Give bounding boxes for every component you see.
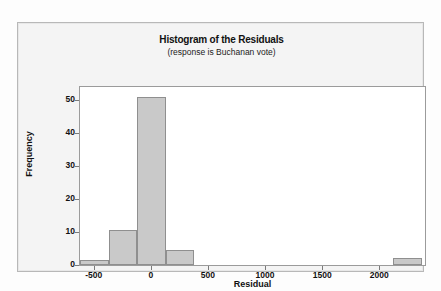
y-axis-title: Frequency: [24, 119, 34, 189]
chart-subtitle: (response is Buchanan vote): [18, 47, 425, 57]
histogram-bar: [109, 230, 138, 265]
x-axis-tick-mark: [94, 266, 95, 270]
x-axis-tick-mark: [208, 266, 209, 270]
x-axis-tick-mark: [379, 266, 380, 270]
x-axis-tick-mark: [151, 266, 152, 270]
histogram-bar: [166, 250, 195, 265]
x-axis-title: Residual: [79, 279, 426, 289]
x-axis-tick-mark: [322, 266, 323, 270]
histogram-bar: [393, 258, 422, 265]
bars-container: [80, 87, 425, 265]
x-axis-tick-mark: [265, 266, 266, 270]
y-axis-tick-label: 10: [45, 226, 75, 236]
y-axis-tick-label: 30: [45, 160, 75, 170]
y-axis-tick-labels: 01020304050: [41, 86, 75, 266]
histogram-bar: [137, 97, 166, 265]
plot-area: [79, 86, 426, 266]
y-axis-tick-label: 20: [45, 193, 75, 203]
y-axis-tick-label: 50: [45, 94, 75, 104]
histogram-screenshot: Histogram of the Residuals (response is …: [0, 0, 441, 291]
chart-title: Histogram of the Residuals: [18, 34, 425, 45]
histogram-bar: [80, 260, 109, 265]
graph-window-frame: Histogram of the Residuals (response is …: [17, 22, 424, 272]
y-axis-tick-label: 0: [45, 259, 75, 269]
y-axis-tick-label: 40: [45, 127, 75, 137]
